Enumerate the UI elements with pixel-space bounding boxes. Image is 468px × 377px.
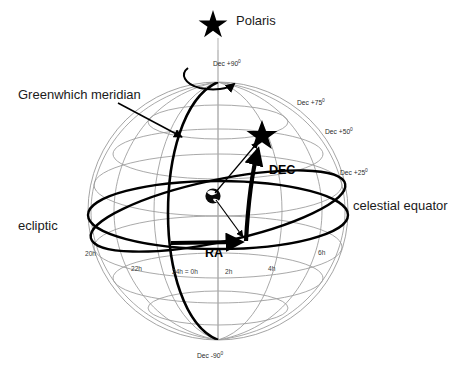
label-ra-24h-0h: 24h = 0h: [172, 269, 198, 276]
label-dec-minus-90: Dec -900: [197, 352, 223, 360]
dec-minus-90-degree: 0: [220, 351, 223, 356]
dec-plus-25-degree: 0: [365, 168, 368, 173]
label-dec-plus-75: Dec +750: [297, 99, 325, 107]
dec-plus-50-degree: 0: [350, 127, 353, 132]
celestial-sphere-diagram: Polaris Greenwhich meridian ecliptic cel…: [0, 0, 468, 377]
polaris-marker: [199, 10, 228, 82]
dec-minus-90-text: Dec -90: [197, 352, 220, 359]
label-ra-22h: 22h: [131, 266, 142, 273]
label-celestial-equator: celestial equator: [353, 199, 448, 212]
label-dec-plus-50: Dec +500: [325, 128, 353, 136]
label-ra-6h: 6h: [318, 250, 325, 257]
dec-plus-75-degree: 0: [322, 98, 325, 103]
celestial-sphere-graphic: [0, 0, 468, 377]
dec-plus-50-text: Dec +50: [325, 128, 350, 135]
label-dec: DEC: [269, 164, 295, 177]
dec-plus-90-text: Dec +90: [213, 60, 238, 67]
label-ra-4h: 4h: [268, 266, 275, 273]
ra-arrow: [171, 242, 241, 243]
label-ra: RA: [205, 247, 223, 260]
dec-plus-90-degree: 0: [238, 59, 241, 64]
label-ecliptic: ecliptic: [18, 219, 58, 232]
label-dec-plus-90: Dec +900: [213, 60, 241, 68]
label-ra-20h: 20h: [85, 251, 96, 258]
label-greenwich-meridian: Greenwhich meridian: [18, 88, 141, 101]
dec-plus-25-text: Dec +25: [340, 169, 365, 176]
dec-plus-75-text: Dec +75: [297, 99, 322, 106]
label-polaris: Polaris: [236, 14, 276, 27]
label-dec-plus-25: Dec +250: [340, 169, 368, 177]
label-ra-2h: 2h: [225, 269, 232, 276]
earth-globe: [205, 188, 220, 203]
